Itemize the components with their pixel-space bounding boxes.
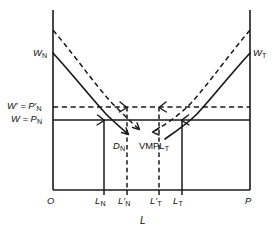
w-prime-level-label: W′ = P′N: [7, 101, 41, 111]
axes-group: [53, 10, 250, 190]
w-n-axis-label: WN: [33, 48, 47, 58]
l-n-prime-intersection-arrow: [120, 102, 127, 112]
vmpl-t-curve: [165, 53, 250, 139]
wage-level-lines: [53, 107, 250, 120]
w-level-label: W = PN: [11, 114, 42, 124]
w-t-axis-label: WT: [253, 48, 266, 58]
x-tick-label-p: P: [245, 196, 251, 205]
x-tick-label-l-t-prime: L′T: [150, 196, 161, 206]
x-tick-label-l-n-prime: L′N: [118, 196, 130, 206]
vmpl-t-curve-label: VMPLT: [139, 141, 169, 151]
intersection-markers: [97, 102, 189, 125]
vmpl-t-curve-group: [153, 30, 251, 139]
economics-diagram: WN WT W′ = P′N W = PN DN VMPLT O LN L′N …: [0, 0, 277, 238]
vmpl-t-shifted-curve: [153, 30, 250, 132]
x-tick-label-o: O: [47, 196, 54, 205]
x-axis-title: L: [140, 216, 146, 226]
x-tick-label-l-n: LN: [95, 196, 105, 206]
x-tick-label-l-t: LT: [173, 196, 183, 206]
d-n-curve-label: DN: [113, 141, 125, 151]
d-n-curve: [53, 53, 128, 134]
d-n-shifted-curve: [53, 30, 139, 129]
